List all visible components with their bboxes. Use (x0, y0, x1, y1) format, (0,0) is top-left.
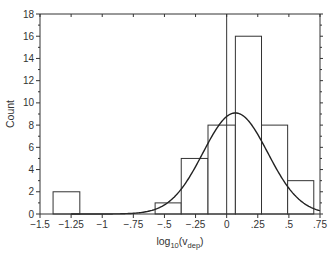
y-tick-label: 8 (28, 120, 34, 131)
histogram-bar (288, 181, 314, 214)
y-axis: 024681012141618 (23, 9, 40, 220)
y-tick-label: 0 (28, 209, 34, 220)
histogram-chart: −1.5−1.25−1−.75−.5−.250.25.5.75 02468101… (0, 0, 334, 256)
histogram-bar (181, 158, 208, 214)
y-tick-label: 10 (23, 97, 35, 108)
y-tick-label: 6 (28, 142, 34, 153)
x-tick-label: −1 (97, 219, 109, 230)
x-tick-label: −1.25 (58, 219, 84, 230)
y-tick-label: 12 (23, 75, 35, 86)
histogram-bar (53, 192, 80, 214)
y-tick-label: 2 (28, 186, 34, 197)
x-tick-label: .75 (313, 219, 327, 230)
x-tick-label: .25 (251, 219, 265, 230)
x-tick-label: 0 (224, 219, 230, 230)
histogram-bar (208, 125, 235, 214)
y-axis-label: Count (4, 100, 16, 128)
x-tick-label: −.5 (157, 219, 172, 230)
x-tick-label: .5 (285, 219, 294, 230)
right-axis (320, 14, 323, 214)
x-tick-label: −.75 (123, 219, 143, 230)
y-tick-label: 16 (23, 31, 35, 42)
x-tick-label: −1.5 (30, 219, 50, 230)
y-tick-label: 14 (23, 53, 35, 64)
x-axis: −1.5−1.25−1−.75−.5−.250.25.5.75 (30, 214, 327, 230)
y-tick-label: 4 (28, 164, 34, 175)
histogram-bar (262, 125, 288, 214)
histogram-bar (235, 36, 261, 214)
x-tick-label: −.25 (186, 219, 206, 230)
x-axis-label: log10(vdep) (156, 235, 203, 250)
histogram-bars (53, 36, 314, 214)
y-tick-label: 18 (23, 9, 35, 20)
